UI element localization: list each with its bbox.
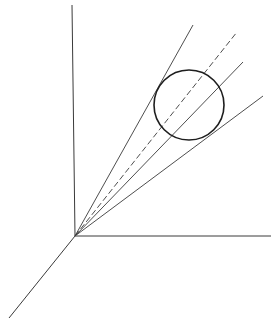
depth-axis: [9, 236, 75, 318]
vertical-axis: [72, 5, 75, 236]
rays-group: [75, 25, 263, 236]
upper-tangent-line: [75, 25, 193, 236]
axes-group: [9, 5, 271, 318]
diagram-canvas: [0, 0, 279, 326]
sphere-circle: [154, 70, 224, 140]
lower-tangent-line: [75, 96, 263, 236]
